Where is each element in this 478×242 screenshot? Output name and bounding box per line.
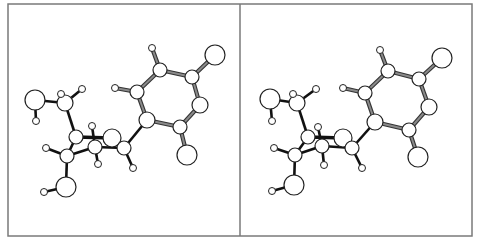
- carbon-atom: [88, 140, 102, 154]
- hydrogen-atom: [321, 162, 328, 169]
- hydrogen-atom: [112, 85, 119, 92]
- hydrogen-atom: [41, 189, 48, 196]
- oxygen-atom: [56, 177, 76, 197]
- heavy-atom: [177, 145, 197, 165]
- hydrogen-atom: [271, 145, 278, 152]
- carbon-atom: [117, 141, 131, 155]
- carbon-atom: [139, 112, 155, 128]
- carbon-atom: [153, 63, 167, 77]
- stereo-molecule-figure: [0, 0, 478, 242]
- carbon-atom: [345, 141, 359, 155]
- heavy-atom: [205, 45, 225, 65]
- hydrogen-atom: [315, 124, 322, 131]
- carbon-atom: [69, 130, 83, 144]
- carbon-atom: [173, 120, 187, 134]
- left-view-panel: [25, 45, 225, 198]
- carbon-atom: [381, 64, 395, 78]
- hydrogen-atom: [313, 86, 320, 93]
- hydrogen-atom: [95, 161, 102, 168]
- right-view-panel: [260, 47, 452, 196]
- atoms: [25, 45, 225, 198]
- atoms: [260, 47, 452, 196]
- carbon-atom: [367, 114, 383, 130]
- carbon-atom: [421, 99, 437, 115]
- hydrogen-atom: [43, 145, 50, 152]
- carbon-atom: [185, 70, 199, 84]
- hydrogen-atom: [58, 91, 65, 98]
- hydrogen-atom: [340, 85, 347, 92]
- hydrogen-atom: [269, 118, 276, 125]
- hydrogen-atom: [79, 86, 86, 93]
- oxygen-atom: [25, 90, 45, 110]
- carbon-atom: [60, 149, 74, 163]
- oxygen-atom: [260, 89, 280, 109]
- hydrogen-atom: [359, 165, 366, 172]
- carbon-atom: [192, 97, 208, 113]
- carbon-atom: [301, 130, 315, 144]
- heavy-atom: [408, 147, 428, 167]
- hydrogen-atom: [377, 47, 384, 54]
- carbon-atom: [130, 85, 144, 99]
- figure-canvas: [0, 0, 478, 242]
- oxygen-atom: [284, 175, 304, 195]
- carbon-atom: [412, 72, 426, 86]
- heavy-atom: [432, 48, 452, 68]
- carbon-atom: [288, 148, 302, 162]
- hydrogen-atom: [89, 123, 96, 130]
- carbon-atom: [402, 123, 416, 137]
- hydrogen-atom: [130, 165, 137, 172]
- carbon-atom: [315, 139, 329, 153]
- bonds: [270, 50, 442, 191]
- hydrogen-atom: [33, 118, 40, 125]
- hydrogen-atom: [290, 91, 297, 98]
- hydrogen-atom: [149, 45, 156, 52]
- carbon-atom: [358, 86, 372, 100]
- bonds: [35, 48, 215, 192]
- hydrogen-atom: [269, 188, 276, 195]
